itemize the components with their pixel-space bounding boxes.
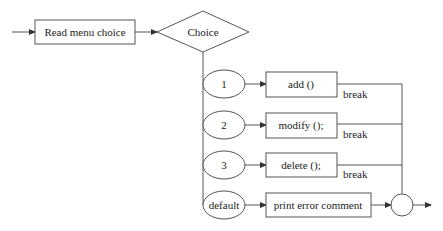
choice-decision-node: Choice xyxy=(157,11,249,52)
read-menu-choice-node: Read menu choice xyxy=(35,20,135,44)
case-1-break-label: break xyxy=(343,88,368,100)
case-2-break-label: break xyxy=(343,128,368,140)
merge-connector-circle xyxy=(391,194,413,216)
case-3-branch: 3 delete (); break xyxy=(203,151,402,180)
case-1-action-label: add () xyxy=(288,78,314,91)
case-2-label: 2 xyxy=(221,119,227,131)
case-3-action-label: delete (); xyxy=(281,159,320,172)
case-default-branch: default print error comment xyxy=(203,191,391,219)
case-2-action-label: modify (); xyxy=(279,119,324,132)
case-default-label: default xyxy=(209,199,240,211)
case-3-label: 3 xyxy=(221,159,227,171)
case-2-branch: 2 modify (); break xyxy=(203,111,402,140)
case-1-label: 1 xyxy=(221,78,227,90)
case-3-break-label: break xyxy=(343,168,368,180)
flowchart-canvas: Read menu choice Choice 1 add () break 2… xyxy=(0,0,443,231)
choice-label: Choice xyxy=(187,26,218,38)
read-menu-choice-label: Read menu choice xyxy=(44,26,125,38)
case-default-action-label: print error comment xyxy=(274,199,363,211)
